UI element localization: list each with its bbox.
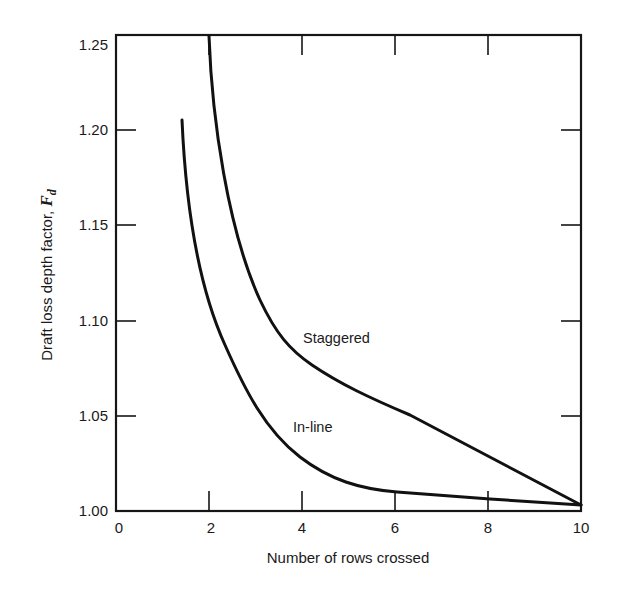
x-tick-label: 4	[298, 519, 306, 536]
y-tick-label: 1.00	[79, 502, 108, 519]
x-ticks-bottom	[209, 491, 488, 511]
y-tick-labels: 1.00 1.05 1.10 1.15 1.20 1.25	[79, 36, 108, 519]
x-tick-label: 6	[391, 519, 399, 536]
y-tick-label: 1.15	[79, 216, 108, 233]
y-axis-title: Draft loss depth factor, Fd	[37, 188, 59, 361]
x-tick-label: 2	[207, 519, 215, 536]
inline-curve	[182, 120, 581, 505]
y-tick-label: 1.05	[79, 407, 108, 424]
staggered-curve	[209, 36, 581, 505]
x-tick-labels: 0 2 4 6 8 10	[115, 519, 590, 536]
plot-frame	[116, 35, 581, 511]
y-ticks-right	[561, 130, 581, 416]
y-axis-title-subscript: d	[45, 188, 59, 195]
y-ticks-left	[116, 130, 136, 416]
x-tick-label: 0	[115, 519, 123, 536]
x-ticks-top	[209, 35, 488, 55]
inline-label: In-line	[293, 419, 333, 435]
y-axis-title-text: Draft loss depth factor,	[38, 207, 55, 361]
x-axis-title: Number of rows crossed	[267, 549, 430, 566]
x-tick-label: 10	[573, 519, 590, 536]
y-tick-label: 1.25	[79, 36, 108, 53]
x-tick-label: 8	[484, 519, 492, 536]
y-axis-title-symbol: F	[37, 195, 56, 208]
chart-svg: 1.00 1.05 1.10 1.15 1.20 1.25 0 2 4 6 8 …	[0, 0, 629, 590]
y-tick-label: 1.10	[79, 312, 108, 329]
staggered-label: Staggered	[303, 330, 370, 346]
y-tick-label: 1.20	[79, 121, 108, 138]
chart: 1.00 1.05 1.10 1.15 1.20 1.25 0 2 4 6 8 …	[0, 0, 629, 590]
